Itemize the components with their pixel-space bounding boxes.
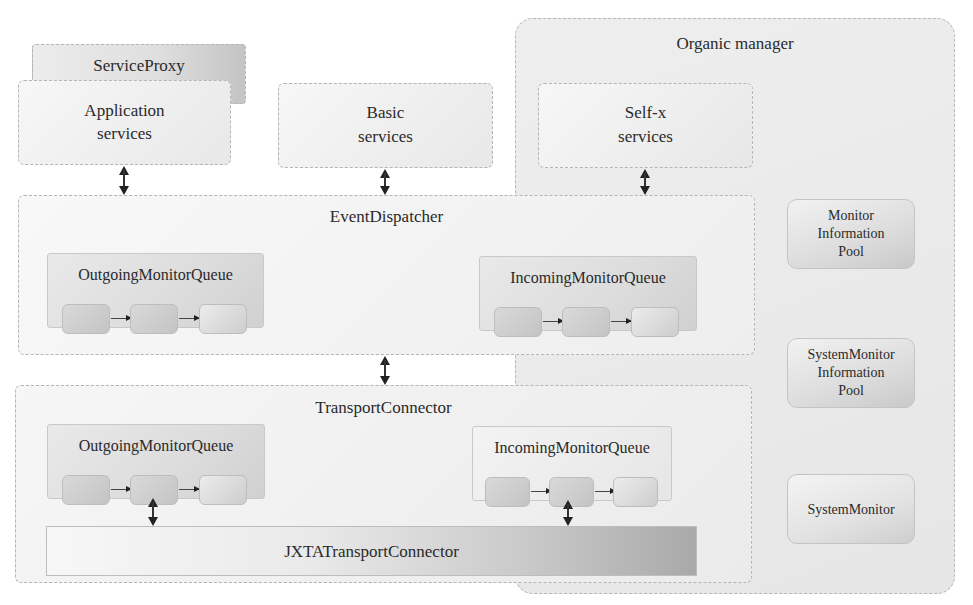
event-dispatcher-title: EventDispatcher xyxy=(19,206,754,228)
system-monitor-information-pool-box: SystemMonitor Information Pool xyxy=(787,338,915,408)
basic-services-line1: Basic xyxy=(279,102,492,124)
queue-cell xyxy=(631,307,679,337)
monitor-pool-line3: Pool xyxy=(788,243,914,261)
basic-services-line2: services xyxy=(279,126,492,148)
queue-cell xyxy=(485,477,530,507)
queue-cell xyxy=(562,307,610,337)
arrow-right-icon xyxy=(179,318,199,319)
monitor-information-pool-box: Monitor Information Pool xyxy=(787,199,915,269)
monitor-pool-line2: Information xyxy=(788,225,914,243)
arrow-right-icon xyxy=(595,491,615,492)
queue-cell xyxy=(62,475,110,505)
transport-connector-title: TransportConnector xyxy=(16,397,751,419)
arrow-right-icon xyxy=(111,318,131,319)
monitor-pool-line1: Monitor xyxy=(788,207,914,225)
queue-cell xyxy=(130,304,178,334)
outgoing-to-jxta-arrow-icon xyxy=(147,498,159,526)
selfx-services-line2: services xyxy=(539,126,752,148)
arrow-right-icon xyxy=(179,489,199,490)
transport-incoming-queue: IncomingMonitorQueue xyxy=(472,426,672,501)
basic-services-box: Basic services xyxy=(278,83,493,168)
selfx-to-dispatcher-arrow-icon xyxy=(639,169,651,195)
incoming-to-jxta-arrow-icon xyxy=(562,500,574,526)
service-proxy-label: ServiceProxy xyxy=(33,55,245,77)
selfx-services-box: Self-x services xyxy=(538,83,753,168)
selfx-services-line1: Self-x xyxy=(539,102,752,124)
arrow-right-icon xyxy=(531,491,551,492)
queue-cell xyxy=(62,304,110,334)
queue-cell xyxy=(199,304,247,334)
system-monitor-pool-line1: SystemMonitor xyxy=(788,346,914,364)
transport-outgoing-queue: OutgoingMonitorQueue xyxy=(47,424,265,499)
organic-manager-title: Organic manager xyxy=(516,33,954,55)
dispatcher-incoming-queue: IncomingMonitorQueue xyxy=(479,256,697,331)
system-monitor-pool-line2: Information xyxy=(788,364,914,382)
jxta-transport-connector-box: JXTATransportConnector xyxy=(46,526,697,576)
dispatcher-outgoing-queue-label: OutgoingMonitorQueue xyxy=(48,266,263,284)
transport-incoming-queue-label: IncomingMonitorQueue xyxy=(473,439,671,457)
jxta-transport-connector-label: JXTATransportConnector xyxy=(47,541,696,563)
dispatcher-outgoing-queue: OutgoingMonitorQueue xyxy=(47,253,264,328)
event-dispatcher-box: EventDispatcher OutgoingMonitorQueue Inc… xyxy=(18,195,755,355)
application-services-line1: Application xyxy=(19,100,230,122)
dispatcher-incoming-queue-label: IncomingMonitorQueue xyxy=(480,269,696,287)
system-monitor-box: SystemMonitor xyxy=(787,474,915,544)
system-monitor-label: SystemMonitor xyxy=(788,501,914,519)
transport-outgoing-queue-label: OutgoingMonitorQueue xyxy=(48,437,264,455)
queue-cell xyxy=(494,307,542,337)
application-services-line2: services xyxy=(19,123,230,145)
basic-to-dispatcher-arrow-icon xyxy=(379,169,391,195)
arrow-right-icon xyxy=(611,321,631,322)
system-monitor-pool-line3: Pool xyxy=(788,382,914,400)
queue-cell xyxy=(199,475,247,505)
arrow-right-icon xyxy=(111,489,131,490)
dispatcher-to-transport-arrow-icon xyxy=(379,356,391,385)
app-to-dispatcher-arrow-icon xyxy=(118,166,130,195)
queue-cell xyxy=(613,477,658,507)
application-services-box: Application services xyxy=(18,80,231,165)
arrow-right-icon xyxy=(543,321,563,322)
